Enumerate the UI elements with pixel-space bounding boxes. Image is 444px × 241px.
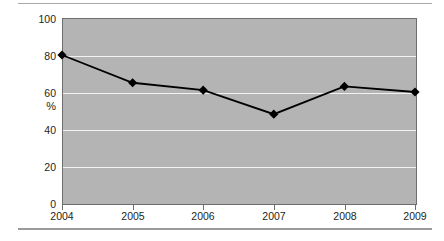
x-tick-label-2006: 2006 [175, 210, 231, 222]
y-axis-title: % [20, 100, 56, 112]
y-axis-labels: 100 80 60 40 20 0 % [0, 0, 444, 241]
y-tick-label-0: 0 [20, 198, 56, 210]
y-tick-label-20: 20 [20, 161, 56, 173]
x-tick-label-2008: 2008 [317, 210, 373, 222]
x-tick-label-2009: 2009 [387, 210, 443, 222]
y-tick-label-80: 80 [20, 50, 56, 62]
chart-figure: 100 80 60 40 20 0 % 2004 2005 2006 2007 … [0, 0, 444, 241]
x-tick-label-2007: 2007 [246, 210, 302, 222]
x-tick-label-2005: 2005 [105, 210, 161, 222]
x-tick-label-2004: 2004 [34, 210, 90, 222]
y-tick-label-60: 60 [20, 87, 56, 99]
y-tick-label-100: 100 [20, 13, 56, 25]
y-tick-label-40: 40 [20, 124, 56, 136]
